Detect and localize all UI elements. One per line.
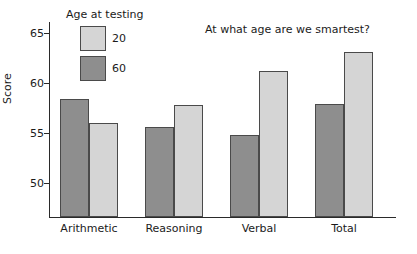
y-tick-mark [44, 83, 50, 84]
x-axis-line [49, 217, 396, 218]
bar-arithmetic-age-60 [60, 99, 89, 217]
y-tick-mark [44, 183, 50, 184]
legend-title: Age at testing [66, 9, 143, 20]
x-label-reasoning: Reasoning [145, 223, 202, 234]
y-tick-mark [44, 133, 50, 134]
plot-area: 50556065 ArithmeticReasoningVerbalTotal [49, 22, 396, 218]
y-tick-label: 55 [30, 128, 44, 139]
bar-reasoning-age-60 [145, 127, 174, 217]
x-label-arithmetic: Arithmetic [60, 223, 117, 234]
bar-verbal-age-20 [259, 71, 288, 217]
bar-verbal-age-60 [230, 135, 259, 217]
y-axis-title: Score [2, 73, 13, 104]
bar-reasoning-age-20 [174, 105, 203, 217]
y-tick-label: 65 [30, 28, 44, 39]
bar-arithmetic-age-20 [89, 123, 118, 217]
y-tick-mark [44, 33, 50, 34]
bar-total-age-20 [344, 52, 373, 217]
x-label-verbal: Verbal [242, 223, 277, 234]
y-tick-label: 50 [30, 178, 44, 189]
bar-chart-figure: At what age are we smartest? Age at test… [0, 0, 417, 254]
x-label-total: Total [331, 223, 357, 234]
y-axis-line [49, 22, 50, 218]
y-tick-label: 60 [30, 78, 44, 89]
bar-total-age-60 [315, 104, 344, 217]
